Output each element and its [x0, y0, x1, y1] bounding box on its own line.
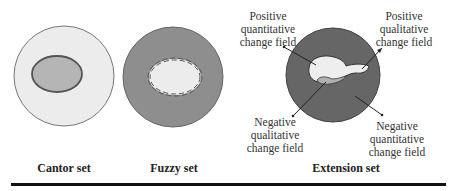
label-line: qualitative [235, 129, 315, 142]
label-line: change field [364, 36, 444, 49]
label-positive-quantitative: Positive quantitative change field [228, 10, 308, 49]
label-line: quantitative [228, 23, 308, 36]
label-line: qualitative [364, 23, 444, 36]
cantor-set-ellipse [32, 56, 82, 92]
title-fuzzy-set: Fuzzy set [134, 161, 214, 176]
fuzzy-set-figure [123, 27, 223, 127]
bottom-rule [11, 183, 446, 186]
label-line: change field [228, 36, 308, 49]
label-line: Negative [357, 120, 437, 133]
label-negative-quantitative: Negative quantitative change field [357, 120, 437, 159]
label-line: change field [357, 146, 437, 159]
cantor-set-figure [14, 26, 114, 126]
label-line: quantitative [357, 133, 437, 146]
fuzzy-set-core [149, 59, 201, 95]
label-line: change field [235, 142, 315, 155]
label-line: Negative [235, 116, 315, 129]
pointer-dot-icon [381, 114, 384, 117]
title-extension-set: Extension set [296, 161, 396, 176]
label-positive-qualitative: Positive qualitative change field [364, 10, 444, 49]
label-line: Positive [364, 10, 444, 23]
label-line: Positive [228, 10, 308, 23]
title-cantor-set: Cantor set [24, 161, 104, 176]
label-negative-qualitative: Negative qualitative change field [235, 116, 315, 155]
